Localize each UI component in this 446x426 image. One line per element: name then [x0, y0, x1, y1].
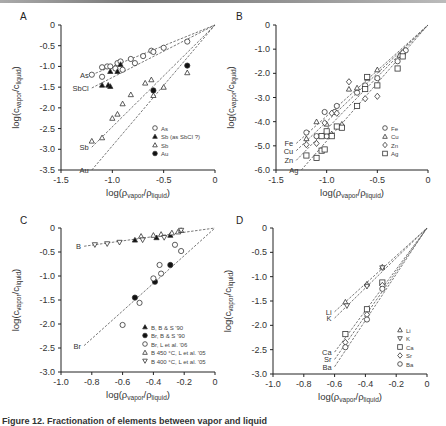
trend-line: [335, 228, 427, 359]
data-point: [304, 130, 309, 135]
x-tick-label: -0.6: [327, 379, 343, 389]
data-point: [354, 103, 359, 108]
y-tick-label: -0.5: [251, 247, 267, 257]
trend-line-label: Ba: [322, 363, 332, 372]
data-point: [128, 56, 133, 61]
legend-marker: [398, 362, 403, 367]
y-axis-title: log(cvapor/cliquid): [222, 270, 235, 333]
trend-line-label: Sb: [80, 143, 89, 152]
legend-marker: [153, 151, 158, 156]
trend-line-label: SbCl: [73, 84, 90, 93]
legend-marker: [398, 337, 403, 341]
y-tick-label: -2.0: [39, 319, 55, 329]
data-point: [343, 345, 348, 350]
y-tick-label: -5.0: [254, 141, 270, 151]
y-tick-label: -3.0: [39, 144, 55, 154]
data-point: [185, 63, 190, 68]
data-point: [304, 142, 309, 148]
data-point: [143, 80, 148, 85]
legend-marker: [153, 143, 158, 147]
data-point: [128, 92, 133, 97]
data-point: [339, 125, 344, 130]
x-tick-label: -0.8: [296, 379, 312, 389]
y-tick-label: -1.5: [251, 296, 267, 306]
y-tick-label: -2.0: [254, 68, 270, 78]
data-point: [120, 322, 125, 327]
legend-marker: [143, 350, 148, 354]
data-point: [334, 103, 339, 108]
data-point: [329, 134, 334, 139]
data-point: [314, 134, 319, 139]
legend-marker: [383, 142, 388, 148]
data-point: [365, 74, 370, 79]
legend-label: Fe: [391, 126, 399, 132]
data-point: [172, 242, 177, 247]
data-point: [151, 49, 156, 54]
legend-marker: [143, 333, 148, 338]
data-point: [346, 79, 351, 85]
y-tick-label: -1.0: [39, 61, 55, 71]
legend-label: Br, B & S '90: [151, 333, 185, 339]
data-point: [319, 134, 324, 139]
trend-line: [84, 228, 215, 346]
x-axis-title: log(ρvapor/ρliquid): [106, 187, 170, 200]
data-point: [314, 155, 319, 160]
y-tick-label: -1.0: [39, 271, 55, 281]
data-point: [151, 88, 156, 93]
data-point: [115, 111, 120, 116]
data-point: [375, 83, 380, 88]
data-point: [99, 74, 104, 79]
data-point: [324, 134, 329, 139]
legend-label: Au: [161, 151, 168, 157]
data-point: [168, 262, 173, 267]
legend-label: Sr: [406, 353, 412, 359]
data-point: [334, 124, 339, 129]
trend-line-label: Au: [80, 166, 89, 175]
data-point: [157, 262, 162, 267]
data-point: [343, 331, 348, 336]
x-tick-label: -0.4: [358, 379, 374, 389]
x-tick-label: -0.2: [176, 377, 192, 387]
y-tick-label: -4.0: [254, 117, 270, 127]
x-tick-label: 0: [424, 379, 429, 389]
trend-line: [335, 228, 427, 312]
y-tick-label: -2.0: [39, 103, 55, 113]
x-tick-label: -1.0: [319, 175, 335, 185]
legend: AsSb (as SbCl ?)SbAu: [153, 126, 200, 158]
data-point: [364, 317, 369, 322]
legend-label: As: [161, 126, 168, 132]
legend-label: Sb (as SbCl ?): [161, 134, 200, 140]
data-point: [89, 72, 94, 77]
panel-label: C: [20, 215, 27, 226]
trend-line: [84, 228, 215, 246]
data-point: [117, 240, 122, 245]
data-point: [132, 61, 137, 66]
legend-label: Cu: [391, 134, 399, 140]
legend-marker: [398, 353, 403, 359]
y-tick-label: -1.5: [39, 82, 55, 92]
data-point: [185, 70, 190, 75]
legend: FeCuZnAg: [383, 126, 399, 158]
legend-marker: [398, 345, 403, 350]
y-axis-title: log(cvapor/cliquid): [10, 66, 23, 129]
data-point: [322, 147, 327, 152]
data-point: [179, 248, 184, 253]
legend-marker: [143, 342, 148, 347]
data-point: [89, 138, 94, 143]
x-tick-label: 0: [212, 175, 217, 185]
chart-panel-c: C-1.0-0.8-0.6-0.4-0.200-0.5-1.0-1.5-2.0-…: [10, 215, 218, 402]
data-point: [120, 67, 125, 72]
y-tick-label: -3.0: [251, 369, 267, 379]
data-point: [344, 304, 349, 309]
data-point: [120, 101, 125, 106]
data-point: [380, 286, 385, 291]
y-tick-label: 0: [50, 223, 55, 233]
x-tick-label: 0: [212, 377, 217, 387]
legend-label: B, B & S '90: [151, 325, 184, 331]
panel-label: D: [236, 215, 243, 226]
data-point: [99, 82, 104, 87]
trend-line-label: B: [76, 242, 81, 251]
legend-label: Sb: [161, 143, 169, 149]
y-axis-title: log(cvapor/cliquid): [225, 66, 238, 129]
data-point: [364, 284, 369, 289]
